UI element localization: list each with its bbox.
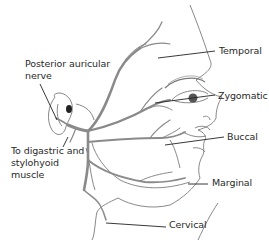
facial-nerve-illustration <box>0 0 269 252</box>
leader-cervical <box>106 223 166 227</box>
label-zygomatic: Zygomatic <box>218 90 268 102</box>
label-cervical: Cervical <box>169 219 207 231</box>
label-posterior-auricular-nerve-line2: nerve <box>25 70 52 82</box>
label-temporal: Temporal <box>219 45 262 57</box>
ear-canal <box>66 105 72 113</box>
label-digastric-line2: stylohyoid <box>11 157 59 169</box>
leader-temporal <box>158 51 215 58</box>
label-buccal: Buccal <box>227 131 258 143</box>
facial-nerve-branches <box>56 22 185 220</box>
label-digastric-line1: To digastric and <box>11 145 84 157</box>
label-posterior-auricular-nerve: Posterior auricular <box>25 58 110 70</box>
face-outline <box>48 5 222 240</box>
label-marginal: Marginal <box>212 177 252 189</box>
leader-buccal <box>165 137 224 145</box>
label-digastric-line3: muscle <box>11 169 44 181</box>
